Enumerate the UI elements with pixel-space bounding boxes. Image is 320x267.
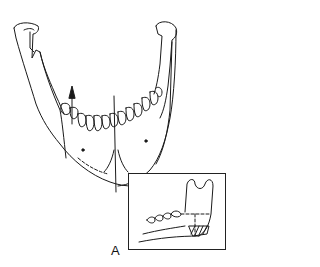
lateral-mandible-drawing bbox=[129, 174, 225, 249]
inset-panel bbox=[128, 173, 226, 250]
panel-label-a: A bbox=[111, 244, 120, 257]
